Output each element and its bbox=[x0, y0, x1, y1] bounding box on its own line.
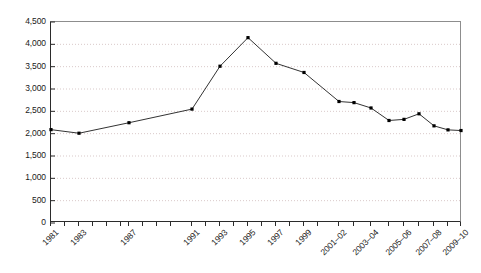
x-axis: 198119831987199119931995199719992001–022… bbox=[0, 0, 481, 273]
line-chart: 05001,0001,5002,0002,5003,0003,5004,0004… bbox=[0, 0, 481, 273]
x-tick-label: 1987 bbox=[101, 228, 138, 265]
